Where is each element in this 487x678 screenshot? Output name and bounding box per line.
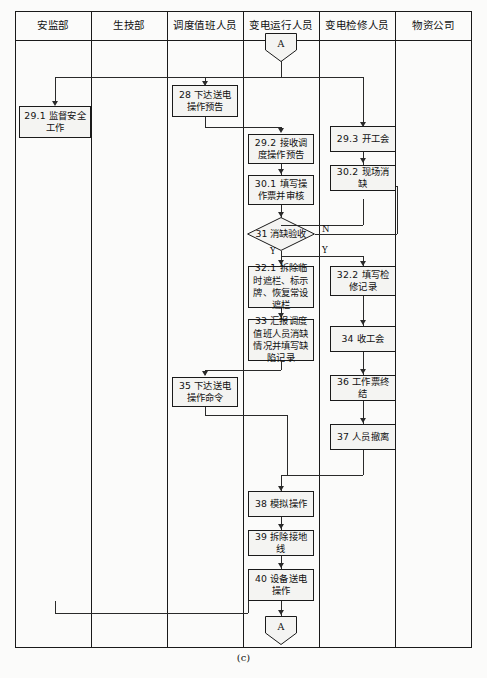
connector-a-top-label: A [265, 33, 297, 53]
node-30-1: 30.1 填写操作票并审核 [248, 175, 314, 205]
node-30-2: 30.2 现场消缺 [330, 165, 396, 191]
node-32-1-text: 32.1 拆除临时遮栏、标示牌、恢复常设遮栏 [251, 262, 311, 312]
node-36-text: 36 工作票终结 [333, 376, 393, 401]
node-28-text: 28 下达送电操作预告 [175, 89, 235, 114]
arrow-to-39 [278, 524, 284, 529]
line-to-29-3 [363, 77, 364, 126]
lane-header-production-tech: 生技部 [91, 11, 167, 40]
node-38: 38 模拟操作 [248, 491, 314, 517]
lane-header-substation-maintenance: 变电检修人员 [319, 11, 395, 40]
node-29-3-text: 29.3 开工会 [333, 133, 393, 145]
node-31-decision: 31 消缺验收 [247, 217, 315, 251]
line-37-to-38-bus [287, 475, 363, 476]
node-33: 33 汇报调度值班人员消缺情况并填写缺陷记录 [248, 319, 314, 361]
branch-label-yes: Y [270, 246, 276, 256]
connector-a-bottom: A [265, 616, 297, 645]
line-31-no-right [315, 234, 397, 235]
node-37: 37 人员撤离 [330, 424, 396, 450]
node-39: 39 拆除接地线 [248, 530, 314, 556]
connector-a-bottom-label: A [265, 616, 297, 636]
node-32-2-text: 32.2 填写检修记录 [333, 269, 393, 294]
node-32-1: 32.1 拆除临时遮栏、标示牌、恢复常设遮栏 [248, 266, 314, 308]
lane-divider-1 [91, 11, 92, 648]
line-top-distribution-bus [55, 77, 363, 78]
line-35-right [205, 415, 287, 416]
lane-header-material-company: 物资公司 [395, 11, 472, 40]
lane-divider-3 [243, 11, 244, 648]
arrow-to-connector-a-bottom [278, 610, 284, 615]
lane-divider-2 [167, 11, 168, 648]
line-31-yes-right [281, 256, 363, 257]
figure-caption: (c) [0, 652, 487, 663]
arrow-to-34 [360, 320, 366, 325]
lane-header-safety-supervision: 安监部 [15, 11, 91, 40]
line-35-to-38-vert [287, 415, 288, 475]
flowchart-figure: 安监部 生技部 调度值班人员 变电运行人员 变电检修人员 物资公司 A 29.1… [0, 0, 487, 678]
node-37-text: 37 人员撤离 [333, 431, 393, 443]
node-40: 40 设备送电操作 [248, 569, 314, 601]
line-to-29-1 [55, 77, 56, 104]
line-33-to-35 [205, 370, 281, 371]
line-28-to-29-2 [205, 127, 281, 128]
line-35-down [205, 407, 206, 415]
node-34-text: 34 收工会 [333, 333, 393, 345]
node-29-2: 29.2 接收调度操作预告 [248, 134, 314, 164]
line-31-no-up [397, 186, 398, 234]
node-39-text: 39 拆除接地线 [251, 531, 311, 556]
lane-header-dispatch-duty: 调度值班人员 [167, 11, 243, 40]
arrow-to-30-1 [278, 169, 284, 174]
arrow-to-37 [360, 418, 366, 423]
line-40-return-up [248, 601, 249, 613]
node-32-2: 32.2 填写检修记录 [330, 266, 396, 296]
node-31-text: 31 消缺验收 [247, 217, 315, 251]
node-30-1-text: 30.1 填写操作票并审核 [251, 178, 311, 203]
arrow-to-40 [278, 563, 284, 568]
line-bottom-return-bus [55, 613, 248, 614]
node-28: 28 下达送电操作预告 [172, 85, 238, 117]
connector-a-top: A [265, 33, 297, 62]
node-29-1: 29.1 监督安全工作 [19, 106, 91, 138]
branch-label-no: N [322, 224, 330, 234]
line-30-2-down [363, 199, 364, 225]
line-a-top-stem [281, 61, 282, 77]
arrow-to-30-2 [360, 158, 366, 163]
node-29-1-text: 29.1 监督安全工作 [22, 110, 88, 135]
node-35: 35 下达送电操作命令 [172, 377, 238, 407]
node-36: 36 工作票终结 [330, 375, 396, 401]
line-37-down [363, 450, 364, 475]
node-35-text: 35 下达送电操作命令 [175, 380, 235, 405]
node-33-text: 33 汇报调度值班人员消缺情况并填写缺陷记录 [251, 315, 311, 365]
node-34: 34 收工会 [330, 326, 396, 352]
line-28-down [205, 117, 206, 127]
line-bottom-return-riser [55, 601, 56, 613]
lane-divider-4 [319, 11, 320, 648]
node-29-3: 29.3 开工会 [330, 126, 396, 152]
node-29-2-text: 29.2 接收调度操作预告 [251, 137, 311, 162]
node-38-text: 38 模拟操作 [251, 498, 311, 510]
arrow-to-36 [360, 369, 366, 374]
arrow-to-29-2 [278, 128, 284, 133]
node-30-2-text: 30.2 现场消缺 [333, 166, 393, 191]
branch-label-yes-right: Y [322, 245, 328, 255]
line-33-down [281, 361, 282, 370]
arrow-to-35 [202, 371, 208, 376]
node-40-text: 40 设备送电操作 [251, 573, 311, 598]
